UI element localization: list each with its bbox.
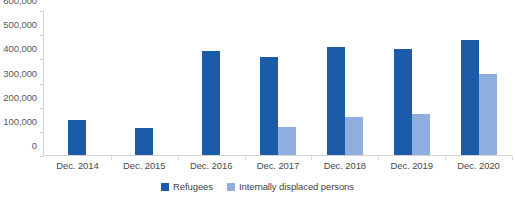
bar-group — [311, 11, 378, 156]
bar-group — [445, 11, 512, 156]
x-axis-tick-mark — [311, 156, 312, 160]
x-axis-tick-label: Dec. 2016 — [178, 160, 245, 171]
bar-refugees[interactable] — [461, 40, 479, 156]
y-axis-tick-label: 100,000 — [3, 115, 37, 126]
y-axis-tick-label: 200,000 — [3, 91, 37, 102]
bar-refugees[interactable] — [327, 47, 345, 156]
y-axis-tick-mark — [40, 84, 44, 85]
x-axis-tick-mark — [378, 156, 379, 160]
y-axis-tick-label: 0 — [32, 140, 37, 151]
y-axis: 0100,000200,000300,000400,000500,000600,… — [0, 0, 40, 160]
y-axis-tick-mark — [40, 156, 44, 157]
y-axis-tick-label: 600,000 — [3, 0, 37, 6]
legend-label: Refugees — [173, 181, 213, 192]
x-axis-tick-mark — [111, 156, 112, 160]
x-axis-tick-mark — [178, 156, 179, 160]
bar-refugees[interactable] — [260, 57, 278, 156]
bar-refugees[interactable] — [135, 128, 153, 156]
x-axis-tick-mark — [245, 156, 246, 160]
x-axis-tick-label: Dec. 2014 — [44, 160, 111, 171]
bar-internally-displaced-persons[interactable] — [412, 114, 430, 156]
bar-internally-displaced-persons[interactable] — [479, 74, 497, 156]
bar-group — [245, 11, 312, 156]
x-axis-tick-mark — [512, 156, 513, 160]
x-axis-tick-label: Dec. 2018 — [311, 160, 378, 171]
bar-chart: 0100,000200,000300,000400,000500,000600,… — [0, 0, 515, 203]
y-axis-tick-mark — [40, 35, 44, 36]
x-axis-line — [43, 155, 512, 156]
y-axis-tick-mark — [40, 11, 44, 12]
x-axis-tick-label: Dec. 2020 — [445, 160, 512, 171]
y-axis-tick-mark — [40, 108, 44, 109]
bar-group — [178, 11, 245, 156]
x-axis-tick-mark — [445, 156, 446, 160]
bar-internally-displaced-persons[interactable] — [345, 117, 363, 156]
bar-group — [111, 11, 178, 156]
y-axis-tick-mark — [40, 132, 44, 133]
legend-swatch-icon — [161, 183, 169, 191]
bar-refugees[interactable] — [68, 120, 86, 156]
x-axis-tick-label: Dec. 2015 — [111, 160, 178, 171]
chart-legend: RefugeesInternally displaced persons — [0, 181, 515, 192]
y-axis-tick-mark — [40, 59, 44, 60]
legend-item[interactable]: Internally displaced persons — [227, 181, 354, 192]
plot-area — [44, 11, 512, 156]
bar-group — [44, 11, 111, 156]
y-axis-tick-label: 400,000 — [3, 43, 37, 54]
legend-swatch-icon — [227, 183, 235, 191]
x-axis: Dec. 2014Dec. 2015Dec. 2016Dec. 2017Dec.… — [44, 160, 512, 176]
bar-refugees[interactable] — [394, 49, 412, 156]
x-axis-tick-label: Dec. 2019 — [378, 160, 445, 171]
legend-item[interactable]: Refugees — [161, 181, 213, 192]
x-axis-tick-label: Dec. 2017 — [245, 160, 312, 171]
bar-group — [378, 11, 445, 156]
y-axis-tick-label: 500,000 — [3, 19, 37, 30]
bar-internally-displaced-persons[interactable] — [278, 127, 296, 156]
legend-label: Internally displaced persons — [239, 181, 354, 192]
y-axis-tick-label: 300,000 — [3, 67, 37, 78]
bar-refugees[interactable] — [202, 51, 220, 156]
